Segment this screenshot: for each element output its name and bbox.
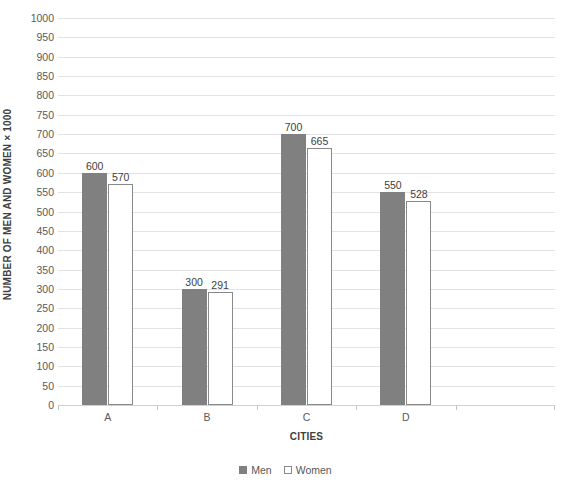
- y-axis-tick-label: 400: [36, 244, 54, 256]
- bar-chart: NUMBER OF MEN AND WOMEN × 1000 050100150…: [0, 0, 571, 482]
- y-axis-tick-label: 1000: [31, 12, 54, 24]
- legend-swatch-icon: [239, 466, 247, 474]
- bar-groups: 600570300291700665550528: [58, 18, 555, 405]
- legend-label: Women: [296, 464, 332, 476]
- x-axis-tick-label: B: [204, 411, 211, 423]
- x-axis-tick: [58, 405, 59, 410]
- y-axis-tick-label: 800: [36, 89, 54, 101]
- x-axis-tick-label: C: [303, 411, 311, 423]
- y-axis-tick-label: 0: [48, 399, 54, 411]
- y-axis-tick-label: 300: [36, 283, 54, 295]
- y-axis-tick-label: 900: [36, 51, 54, 63]
- legend-label: Men: [251, 464, 271, 476]
- y-axis-tick-label: 50: [42, 380, 54, 392]
- y-axis-tick-label: 350: [36, 264, 54, 276]
- x-axis-tick: [554, 405, 555, 410]
- y-axis-tick-label: 200: [36, 322, 54, 334]
- legend-swatch-icon: [284, 466, 292, 474]
- bar-group: [58, 18, 555, 405]
- x-axis-tick-label: A: [104, 411, 111, 423]
- y-axis-tick-label: 700: [36, 128, 54, 140]
- x-axis-tick-label: D: [402, 411, 410, 423]
- legend-item-men[interactable]: Men: [239, 464, 271, 476]
- x-axis-tick: [356, 405, 357, 410]
- y-axis-tick-label: 600: [36, 167, 54, 179]
- y-axis-tick-label: 550: [36, 186, 54, 198]
- y-axis-title-text: NUMBER OF MEN AND WOMEN × 1000: [3, 108, 14, 299]
- x-axis-tick: [157, 405, 158, 410]
- x-axis-tick-labels: ABCD: [58, 411, 555, 427]
- y-axis-tick-label: 100: [36, 360, 54, 372]
- y-axis-tick-label: 750: [36, 109, 54, 121]
- y-axis-tick-label: 650: [36, 147, 54, 159]
- y-axis-tick-label: 450: [36, 225, 54, 237]
- plot-area: 600570300291700665550528: [58, 18, 555, 405]
- y-axis-tick-label: 850: [36, 70, 54, 82]
- x-axis-title: CITIES: [58, 431, 555, 442]
- x-axis-tick: [456, 405, 457, 410]
- y-axis-tick-label: 150: [36, 341, 54, 353]
- legend-item-women[interactable]: Women: [284, 464, 332, 476]
- x-axis-tick: [257, 405, 258, 410]
- chart-legend: MenWomen: [0, 464, 571, 476]
- x-axis-ticks: [58, 405, 555, 410]
- y-axis-tick-label: 950: [36, 31, 54, 43]
- y-axis-tick-label: 250: [36, 302, 54, 314]
- y-axis-tick-label: 500: [36, 206, 54, 218]
- y-axis-tick-labels: 0501001502002503003504004505005506006507…: [14, 18, 54, 405]
